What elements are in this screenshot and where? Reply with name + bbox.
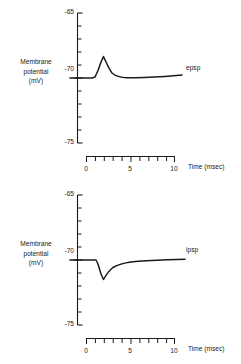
epsp-xtick-label-10: 10 [166,165,182,172]
epsp-ytick-label-75: -75 [52,138,74,145]
epsp-ytick-label-65: -65 [52,8,74,15]
ipsp-ytick-label-70: -70 [52,247,74,254]
ipsp-ytick-label-75: -75 [52,320,74,327]
ipsp-xtick-label-0: 0 [78,347,94,354]
ipsp-ytick-label-65: -65 [52,190,74,197]
epsp-x-ticks [87,157,175,163]
epsp-trace-line [70,57,182,79]
epsp-plot-svg [0,0,241,182]
epsp-ytick-label-70: -70 [52,65,74,72]
ipsp-trace-line [70,259,185,279]
epsp-y-axis-title-line3: (mV) [4,76,68,86]
ipsp-xtick-label-10: 10 [166,347,182,354]
epsp-trace-label: epsp [186,64,200,71]
ipsp-xtick-label-5: 5 [122,347,138,354]
ipsp-y-axis-title-line3: (mV) [4,258,68,268]
ipsp-trace-label: ipsp [186,246,198,253]
panel-epsp: Membrane potential (mV) -65 -70 -75 0 5 … [0,0,241,182]
ipsp-plot-svg [0,182,241,364]
ipsp-x-axis-title: Time (msec) [188,345,224,352]
membrane-potential-figure: Membrane potential (mV) -65 -70 -75 0 5 … [0,0,241,364]
epsp-xtick-label-0: 0 [78,165,94,172]
ipsp-x-ticks [87,339,175,345]
epsp-xtick-label-5: 5 [122,165,138,172]
epsp-x-axis-title: Time (msec) [188,163,224,170]
panel-ipsp: Membrane potential (mV) -65 -70 -75 0 5 … [0,182,241,364]
